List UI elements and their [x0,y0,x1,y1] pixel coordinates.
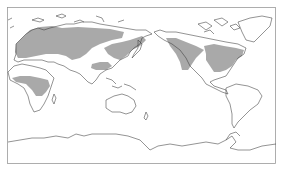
world-map [0,0,285,172]
